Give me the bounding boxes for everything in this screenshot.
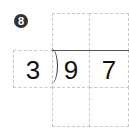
- dividend-digit-2: 7: [89, 51, 129, 89]
- dividend-digit-1: 9: [52, 51, 90, 89]
- work-cell-2[interactable]: [89, 87, 129, 127]
- quotient-cell-1[interactable]: [52, 13, 90, 51]
- work-cell-1[interactable]: [52, 87, 90, 127]
- quotient-cell-2[interactable]: [89, 13, 129, 51]
- divisor-digit: 3: [13, 51, 53, 89]
- problem-number-badge: 8: [14, 14, 28, 28]
